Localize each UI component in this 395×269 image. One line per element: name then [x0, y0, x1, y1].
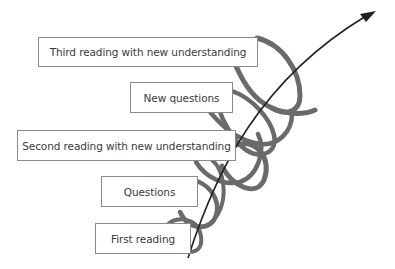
stage-label: Questions [124, 186, 176, 198]
stage-first-reading: First reading [95, 223, 191, 254]
stage-third-reading: Third reading with new understanding [38, 37, 258, 67]
stage-label: First reading [111, 233, 175, 245]
stage-second-reading: Second reading with new understanding [17, 130, 236, 161]
stage-label: New questions [144, 92, 220, 104]
stage-label: Third reading with new understanding [50, 46, 247, 58]
arrow-icon [360, 11, 376, 22]
stage-questions: Questions [101, 176, 198, 207]
stage-new-questions: New questions [130, 82, 233, 113]
stage-label: Second reading with new understanding [22, 140, 231, 152]
